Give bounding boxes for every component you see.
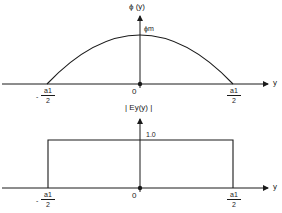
top-left-tick-label: - a1 2 (41, 87, 55, 104)
bottom-origin-label: 0 (132, 192, 136, 200)
bottom-right-tick-label: a1 2 (227, 191, 241, 208)
top-y-var-label: y (273, 79, 277, 87)
bottom-y-var-label: y (273, 183, 277, 191)
ey-axis-label: | Ey(y) | (125, 104, 152, 112)
top-plot (2, 16, 268, 88)
bottom-left-tick-label: - a1 2 (41, 191, 55, 208)
top-right-tick-label: a1 2 (227, 87, 241, 104)
top-origin-label: 0 (132, 88, 136, 96)
top-origin-dot (138, 82, 142, 86)
level-label: 1.0 (146, 131, 156, 138)
phi-axis-label: ϕ (y) (129, 3, 145, 11)
bottom-plot (2, 119, 268, 192)
bottom-origin-dot (138, 186, 142, 190)
phi-max-label: ϕm (144, 25, 154, 32)
